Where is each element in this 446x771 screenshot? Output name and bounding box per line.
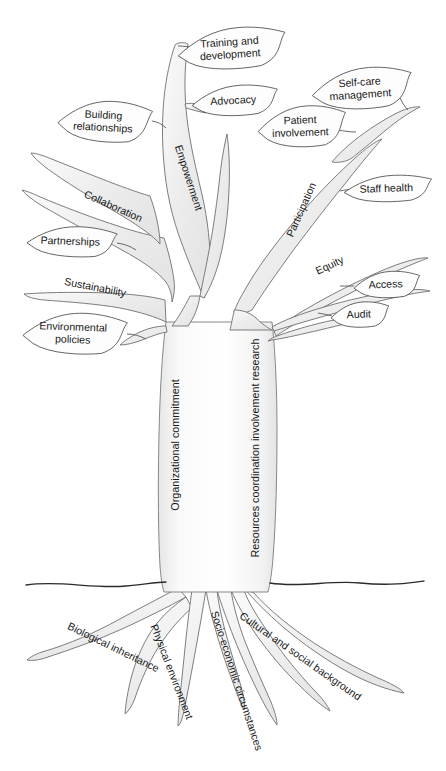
branch-label-equity: Equity — [314, 253, 346, 277]
leaf-patient-involvement[interactable]: Patientinvolvement — [257, 104, 346, 148]
tree-illustration: Training anddevelopmentAdvocacySelf-care… — [0, 0, 446, 771]
leaf-label: Access — [368, 277, 403, 290]
leaf-access[interactable]: Access — [354, 270, 421, 299]
trunk-label-text: Resources coordination involvement resea… — [249, 338, 261, 557]
leaf-self-care-management[interactable]: Self-caremanagement — [311, 65, 414, 113]
leaf-label: Patient — [283, 113, 316, 126]
trunk-label-resources-coordination-involvement-research: Resources coordination involvement resea… — [249, 338, 261, 557]
trunk-label-text: Organizational commitment — [169, 379, 181, 510]
leaf-label: Staff health — [359, 181, 413, 195]
branch-shape-selfcare-limb — [332, 107, 420, 163]
leaf-label: Advocacy — [210, 93, 257, 107]
tree-diagram: Training anddevelopmentAdvocacySelf-care… — [0, 0, 446, 771]
leaf-label: involvement — [272, 125, 329, 139]
leaf-label: Partnerships — [40, 234, 100, 248]
leaf-label: Environmental — [39, 319, 107, 333]
leaf-training-and-development[interactable]: Training anddevelopment — [177, 24, 288, 72]
stem-patient-involvement — [338, 130, 356, 132]
leaf-label: Audit — [347, 307, 372, 320]
leaf-staff-health[interactable]: Staff health — [344, 174, 433, 203]
root-group — [27, 588, 404, 726]
leaf-building-relationships[interactable]: Buildingrelationships — [57, 99, 153, 145]
leaf-partnerships[interactable]: Partnerships — [27, 225, 118, 258]
branch-shape-empowerment-base — [172, 296, 200, 326]
leaf-label: policies — [55, 332, 91, 345]
trunk-label-organizational-commitment: Organizational commitment — [169, 379, 181, 510]
branch-label-text: Equity — [314, 253, 346, 277]
leaf-environmental-policies[interactable]: Environmentalpolicies — [22, 311, 127, 355]
branch-shape-participation-lower — [230, 310, 272, 330]
stem-self-care-management — [400, 98, 408, 110]
branch-shape-environmental-stem — [120, 326, 167, 345]
